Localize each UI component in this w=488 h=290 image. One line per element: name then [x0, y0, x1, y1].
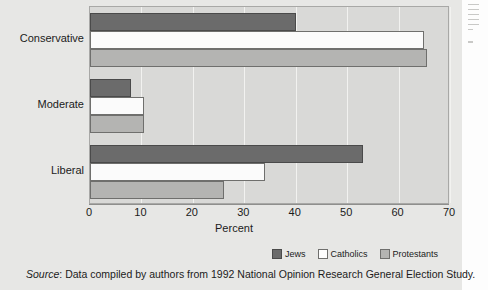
- x-tick-30: 30: [228, 206, 258, 219]
- x-axis-line: [89, 204, 449, 205]
- x-tick-70: 70: [434, 206, 464, 219]
- bar-protestants-moderate: [90, 115, 144, 133]
- category-axis: ConservativeModerateLiberal: [0, 6, 84, 204]
- legend-item-catholics: Catholics: [318, 249, 368, 259]
- legend-swatch-jews-icon: [272, 249, 282, 259]
- gridline: [450, 7, 451, 203]
- bar-jews-liberal: [90, 145, 363, 163]
- scan-edge-artifacts: [468, 4, 482, 46]
- bar-catholics-conservative: [90, 31, 424, 49]
- plot-area: [89, 6, 449, 204]
- legend-item-protestants: Protestants: [380, 249, 439, 259]
- category-label-moderate: Moderate: [0, 98, 84, 111]
- bar-catholics-moderate: [90, 97, 144, 115]
- legend-label-protestants: Protestants: [393, 249, 439, 259]
- legend-label-jews: Jews: [285, 249, 306, 259]
- bar-protestants-conservative: [90, 49, 427, 67]
- category-label-conservative: Conservative: [0, 32, 84, 45]
- bar-jews-conservative: [90, 13, 296, 31]
- legend-label-catholics: Catholics: [331, 249, 368, 259]
- x-tick-0: 0: [74, 206, 104, 219]
- x-tick-10: 10: [125, 206, 155, 219]
- x-tick-60: 60: [383, 206, 413, 219]
- category-label-liberal: Liberal: [0, 164, 84, 177]
- legend-swatch-protestants-icon: [380, 249, 390, 259]
- figure-container: ConservativeModerateLiberal 010203040506…: [0, 0, 488, 290]
- source-text: Data compiled by authors from 1992 Natio…: [65, 268, 475, 280]
- legend-swatch-catholics-icon: [318, 249, 328, 259]
- chart-legend: JewsCatholicsProtestants: [272, 247, 445, 261]
- source-label: Source: [26, 268, 59, 280]
- bar-protestants-liberal: [90, 181, 224, 199]
- source-note: Source: Data compiled by authors from 19…: [26, 268, 475, 280]
- legend-item-jews: Jews: [272, 249, 306, 259]
- x-tick-40: 40: [280, 206, 310, 219]
- x-tick-20: 20: [177, 206, 207, 219]
- bar-catholics-liberal: [90, 163, 265, 181]
- bar-jews-moderate: [90, 79, 131, 97]
- x-axis-title: Percent: [0, 222, 478, 234]
- x-tick-50: 50: [331, 206, 361, 219]
